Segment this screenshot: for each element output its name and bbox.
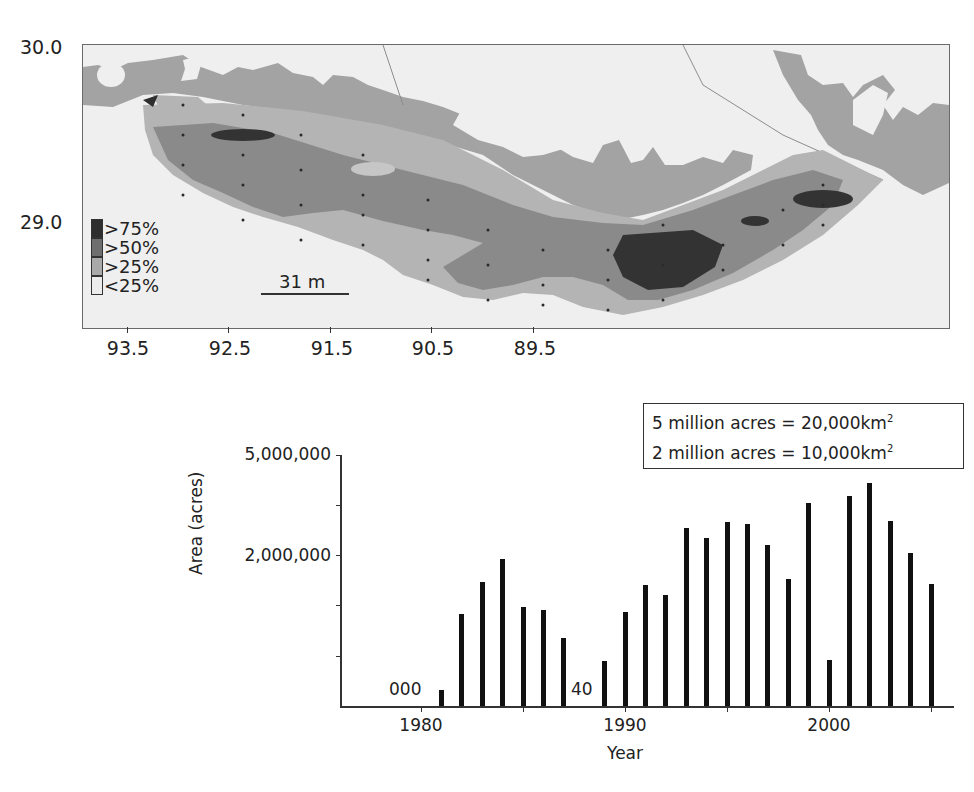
bar-1986: [541, 610, 546, 706]
annotation-40: 40: [571, 679, 593, 699]
x-tick-label-1990: 1990: [603, 715, 646, 735]
x-axis: [340, 706, 954, 708]
bar-1984: [500, 559, 505, 706]
legend-item-gt50: >50%: [91, 238, 159, 257]
y-tick-label-2000000: 2,000,000: [181, 545, 331, 565]
legend-swatch-lt25: [91, 276, 103, 295]
bar-1985: [521, 607, 526, 706]
bar-1997: [765, 545, 770, 706]
bar-1993: [684, 528, 689, 706]
legend-item-gt75: >75%: [91, 219, 159, 238]
x-tick-label-2000: 2000: [807, 715, 850, 735]
bar-1992: [663, 595, 668, 706]
zone-gt75-west: [211, 129, 275, 141]
bar-1994: [704, 538, 709, 706]
bar-1998: [786, 579, 791, 706]
map-x-label-93-5: 93.5: [107, 337, 149, 359]
hypoxia-map: >75% >50% >25% <25% 31 m: [82, 44, 950, 329]
bar-2000: [827, 660, 832, 706]
bar-1989: [602, 661, 607, 706]
scale-bar-label: 31 m: [279, 271, 325, 292]
map-x-axis: 93.5 92.5 91.5 90.5 89.5: [0, 327, 974, 367]
annotation-000: 000: [389, 679, 421, 699]
legend-swatch-gt25: [91, 257, 103, 276]
bar-1982: [459, 614, 464, 706]
bar-1987: [561, 638, 566, 706]
bar-1995: [725, 522, 730, 706]
bar-2003: [888, 521, 893, 706]
y-axis: [340, 455, 342, 707]
bar-1981: [439, 690, 444, 706]
bar-1999: [806, 503, 811, 706]
map-x-label-92-5: 92.5: [209, 337, 251, 359]
legend-swatch-gt75: [91, 219, 103, 238]
bar-2004: [908, 553, 913, 706]
bar-1991: [643, 585, 648, 706]
map-y-label-30: 30.0: [20, 36, 62, 58]
legend-label-gt25: >25%: [104, 256, 159, 277]
map-x-label-89-5: 89.5: [514, 337, 556, 359]
map-legend: >75% >50% >25% <25%: [91, 219, 159, 295]
conversion-note-box: 5 million acres = 20,000km2 2 million ac…: [643, 403, 964, 469]
map-y-label-29: 29.0: [20, 211, 62, 233]
scale-bar: [261, 293, 349, 295]
map-graphic: [83, 45, 949, 328]
y-tick-label-5000000: 5,000,000: [181, 444, 331, 464]
bar-1990: [623, 612, 628, 706]
legend-swatch-gt50: [91, 238, 103, 257]
legend-label-gt75: >75%: [104, 218, 159, 239]
bar-1983: [480, 582, 485, 706]
map-x-label-90-5: 90.5: [412, 337, 454, 359]
bar-2005: [929, 584, 934, 706]
legend-label-gt50: >50%: [104, 237, 159, 258]
legend-item-gt25: >25%: [91, 257, 159, 276]
bar-1996: [745, 524, 750, 706]
legend-label-lt25: <25%: [104, 275, 159, 296]
map-x-label-91-5: 91.5: [311, 337, 353, 359]
bar-2001: [847, 496, 852, 706]
x-axis-title: Year: [607, 743, 643, 763]
bar-2002: [867, 483, 872, 706]
legend-item-lt25: <25%: [91, 276, 159, 295]
conversion-line-1: 5 million acres = 20,000km2: [652, 406, 955, 436]
conversion-line-2: 2 million acres = 10,000km2: [652, 436, 955, 466]
x-tick-label-1980: 1980: [399, 715, 442, 735]
